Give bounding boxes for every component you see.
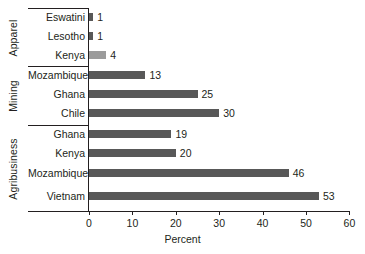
bar-chart: Apparel Mining Agribusiness Eswatini1Les… [0,0,365,254]
category-label: Mozambique [28,67,85,83]
bar-value-label: 25 [202,86,214,102]
bar-value-label: 46 [293,165,305,181]
category-label: Mozambique [28,165,85,181]
bar-row: Lesotho1 [0,28,365,44]
bar-row: Eswatini1 [0,9,365,25]
category-label: Eswatini [28,9,85,25]
category-label: Chile [28,105,85,121]
bar-row: Mozambique13 [0,67,365,83]
bar-row: Mozambique46 [0,165,365,181]
x-tick-label: 20 [164,216,188,230]
bar [89,51,106,59]
x-axis-title: Percent [0,233,365,245]
bar-value-label: 1 [97,28,103,44]
x-tick-label: 30 [207,216,231,230]
category-label: Ghana [28,86,85,102]
bar [89,90,198,98]
bar [89,71,145,79]
bar [89,109,219,117]
x-axis-line [28,211,349,212]
x-tick-mark [306,211,307,215]
bar-value-label: 1 [97,9,103,25]
x-tick-mark [176,211,177,215]
x-tick-mark [263,211,264,215]
bar-row: Vietnam53 [0,188,365,204]
bar [89,130,171,138]
x-tick-label: 50 [294,216,318,230]
bar-value-label: 4 [110,47,116,63]
category-label: Kenya [28,47,85,63]
bar-row: Kenya4 [0,47,365,63]
bar [89,149,176,157]
bar-row: Chile30 [0,105,365,121]
x-tick-mark [219,211,220,215]
bar [89,32,93,40]
bar-value-label: 13 [149,67,161,83]
bar-value-label: 30 [223,105,235,121]
x-tick-mark [132,211,133,215]
category-label: Kenya [28,145,85,161]
bar-row: Ghana19 [0,126,365,142]
x-tick-mark [349,211,350,215]
bar [89,13,93,21]
x-tick-label: 40 [251,216,275,230]
bar-value-label: 53 [323,188,335,204]
x-tick-label: 0 [77,216,101,230]
bar-row: Kenya20 [0,145,365,161]
bar-row: Ghana25 [0,86,365,102]
bar-value-label: 20 [180,145,192,161]
category-label: Ghana [28,126,85,142]
bar [89,169,289,177]
x-tick-mark [89,211,90,215]
bar [89,192,319,200]
category-label: Lesotho [28,28,85,44]
bar-value-label: 19 [175,126,187,142]
x-tick-label: 60 [337,216,361,230]
category-label: Vietnam [28,188,85,204]
x-tick-label: 10 [120,216,144,230]
